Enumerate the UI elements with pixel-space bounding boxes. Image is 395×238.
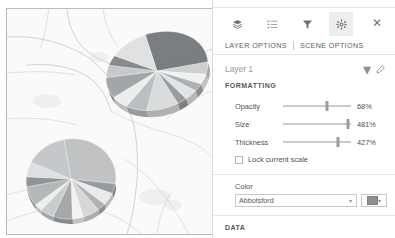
color-swatch [367,196,378,205]
thickness-slider-handle[interactable] [337,137,340,147]
color-row: Abbotsford ▾ ▾ [235,194,387,207]
size-label: Size [225,120,283,129]
thickness-slider-row[interactable]: Thickness 427% [225,135,389,149]
data-section-header: DATA [225,224,245,231]
size-slider-row[interactable]: Size 481% [225,117,389,131]
close-panel-button[interactable]: ✕ [367,13,387,33]
size-slider[interactable] [283,118,351,130]
opacity-label: Opacity [225,102,283,111]
chevron-down-icon[interactable]: ▾ [361,60,373,79]
filter-icon [302,19,313,30]
settings-side-panel: ✕ LAYER OPTIONS SCENE OPTIONS Layer 1 ▾ … [212,0,395,238]
layers-icon [232,19,243,30]
tab-separator [293,41,294,50]
gear-icon [336,19,347,30]
opacity-value: 68% [357,102,389,111]
chevron-down-icon: ▾ [378,198,382,204]
thickness-value: 427% [357,138,389,147]
layers-icon-button[interactable] [225,12,249,36]
size-value: 481% [357,120,389,129]
tab-layer-options[interactable]: LAYER OPTIONS [225,41,292,50]
lock-current-scale-checkbox[interactable] [235,156,243,164]
map-frame[interactable] [6,8,212,235]
thickness-slider-track [283,141,351,143]
size-slider-handle[interactable] [346,119,349,129]
opacity-slider-handle[interactable] [325,101,328,111]
settings-icon-button[interactable] [329,12,353,36]
opacity-slider-track [283,105,351,107]
close-icon: ✕ [372,17,382,29]
opacity-slider-row[interactable]: Opacity 68% [225,99,389,113]
section-divider-1 [213,174,395,175]
color-swatch-dropdown[interactable]: ▾ [361,194,387,207]
size-slider-track [283,123,351,125]
lock-current-scale-row[interactable]: Lock current scale [235,155,308,164]
color-label: Color [235,182,253,191]
layer-selector-row[interactable]: Layer 1 ▾ [225,61,387,77]
legend-icon-button[interactable] [260,12,284,36]
pencil-icon[interactable] [373,65,387,74]
legend-icon [267,19,278,30]
app-root: ✕ LAYER OPTIONS SCENE OPTIONS Layer 1 ▾ … [0,0,395,238]
color-field-dropdown[interactable]: Abbotsford ▾ [235,194,357,207]
section-divider-2 [213,215,395,216]
map-canvas[interactable] [7,9,212,234]
chevron-down-icon: ▾ [349,198,353,204]
layer-name-label: Layer 1 [225,64,361,74]
color-field-value: Abbotsford [239,196,349,205]
tab-scene-options[interactable]: SCENE OPTIONS [300,41,369,50]
formatting-section-header: FORMATTING [225,82,276,89]
lock-current-scale-label: Lock current scale [248,155,308,164]
opacity-slider[interactable] [283,100,351,112]
panel-tabs: LAYER OPTIONS SCENE OPTIONS [225,41,369,50]
tabs-underline [213,54,395,55]
filter-icon-button[interactable] [295,12,319,36]
map-panel[interactable] [0,0,212,238]
panel-top-divider [213,7,395,8]
panel-icon-toolbar: ✕ [213,12,395,38]
thickness-slider[interactable] [283,136,351,148]
thickness-label: Thickness [225,138,283,147]
